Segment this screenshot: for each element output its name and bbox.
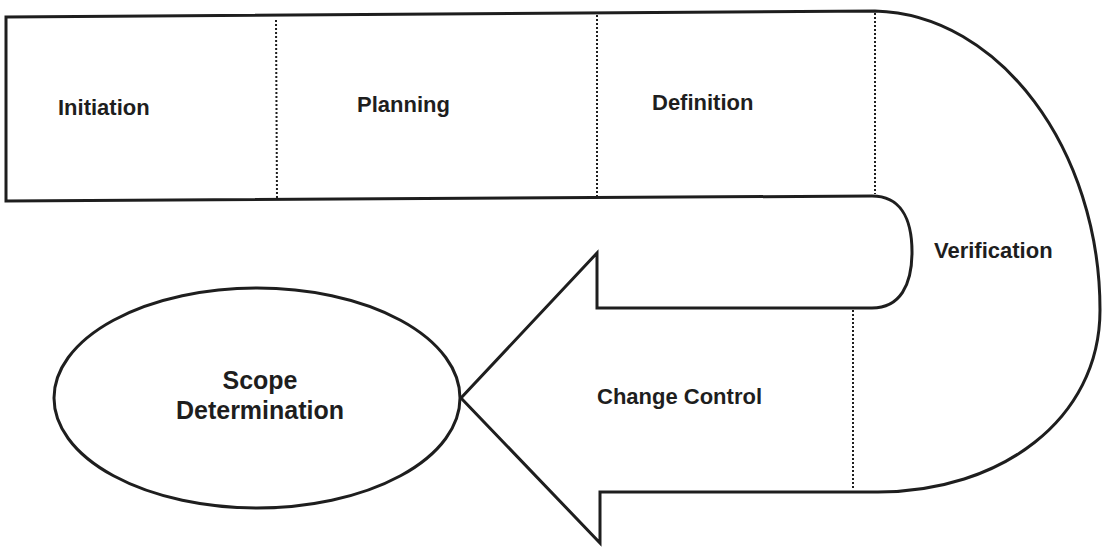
phase-label-change-control: Change Control	[597, 386, 762, 408]
phase-label-definition: Definition	[652, 92, 753, 114]
phase-label-initiation: Initiation	[58, 97, 150, 119]
outcome-label: Scope Determination	[120, 365, 400, 425]
outcome-label-line1: Scope	[120, 365, 400, 395]
diagram-canvas	[0, 0, 1106, 552]
phase-label-verification: Verification	[934, 240, 1053, 262]
outcome-label-line2: Determination	[120, 395, 400, 425]
phase-label-planning: Planning	[357, 94, 450, 116]
